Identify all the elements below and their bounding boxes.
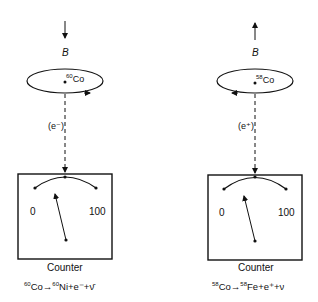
field-label: B: [252, 48, 259, 58]
dial-max-label: 100: [278, 208, 295, 218]
emitted-particle-label: (e⁺): [238, 122, 254, 131]
isotope-label: 60Co: [66, 73, 84, 84]
decay-equation: 58Co→58Fe+e⁺+ν: [212, 281, 284, 292]
dial-max-label: 100: [89, 207, 106, 217]
dial-needle: [55, 194, 66, 240]
dial-min-label: 0: [30, 207, 36, 217]
dial-needle: [244, 196, 255, 241]
isotope-symbol: Co: [73, 74, 85, 84]
emitted-particle-label: (e⁻): [48, 122, 64, 131]
dial-min-label: 0: [219, 208, 225, 218]
counter-label: Counter: [47, 263, 83, 273]
current-loop: [217, 69, 293, 93]
isotope-mass: 60: [66, 73, 73, 79]
isotope-mass: 58: [256, 74, 263, 80]
dial-arc: [224, 178, 286, 190]
isotope-symbol: Co: [263, 75, 275, 85]
counter-label: Counter: [238, 263, 274, 273]
decay-equation: 60Co→60Ni+e⁻+ν̄: [24, 281, 94, 292]
field-label: B: [62, 48, 69, 58]
dial-arc: [35, 177, 96, 188]
diagram-graphics: [0, 0, 318, 302]
isotope-label: 58Co: [256, 74, 274, 85]
right-panel-graphics: [208, 23, 302, 260]
